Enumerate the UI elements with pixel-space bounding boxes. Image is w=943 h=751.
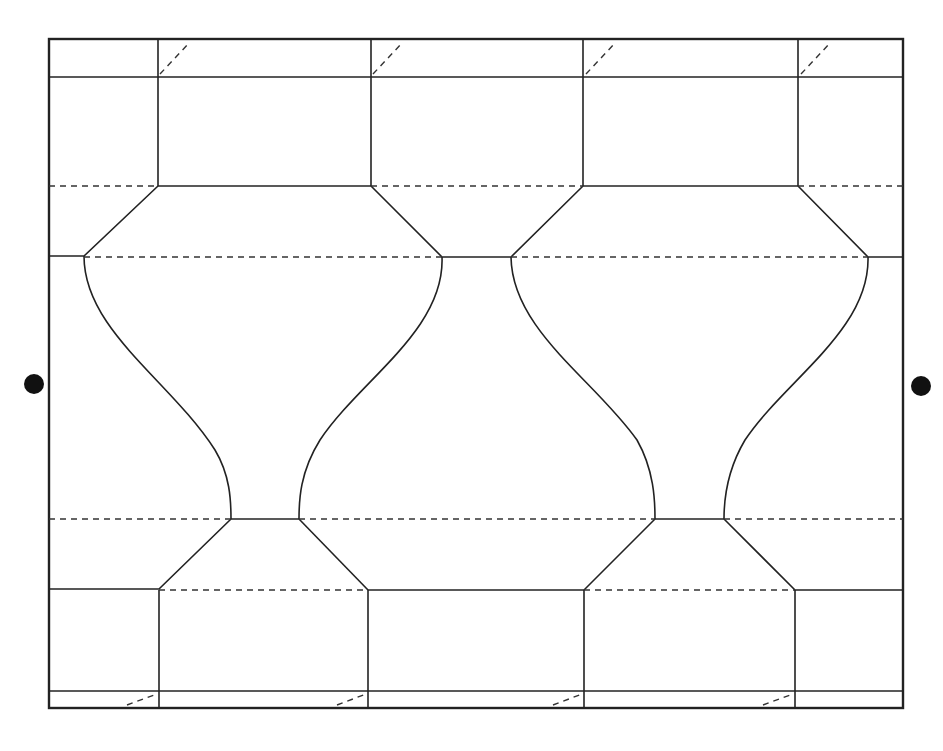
shoulder-left-1	[49, 186, 158, 256]
base-middle	[299, 519, 584, 590]
base-left-1	[49, 519, 231, 589]
tab-diagonal-top-4	[801, 42, 831, 74]
outer-frame	[49, 39, 903, 708]
base-right-2	[724, 519, 903, 590]
left-registration-dot	[24, 374, 44, 394]
shoulder-right-2	[798, 186, 903, 257]
tab-diagonal-top-3	[586, 42, 616, 74]
tab-diagonal-top-1	[160, 42, 190, 74]
tab-diagonal-bottom-3	[553, 694, 582, 705]
vase-1-left-curve	[84, 256, 231, 519]
fold-pattern-diagram	[0, 0, 943, 751]
base-1-right	[299, 519, 368, 590]
vase-2-right-curve	[724, 257, 868, 519]
tab-diagonal-top-2	[373, 42, 403, 74]
right-registration-dot	[911, 376, 931, 396]
vase-2-left-curve	[511, 257, 655, 519]
tab-diagonal-bottom-4	[763, 694, 793, 705]
shoulder-middle	[371, 186, 583, 257]
diagram-canvas	[0, 0, 943, 751]
tab-diagonal-bottom-2	[337, 694, 366, 705]
vase-1-right-curve	[299, 257, 442, 519]
tab-diagonal-bottom-1	[127, 694, 157, 705]
base-2-left	[584, 519, 655, 590]
